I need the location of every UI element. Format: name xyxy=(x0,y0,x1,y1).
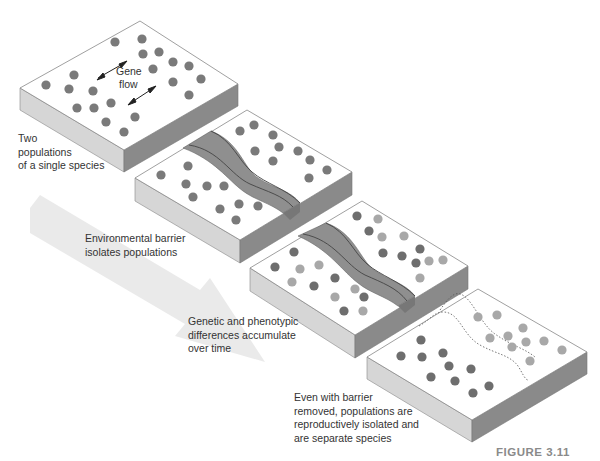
caption-stage-3: Genetic and phenotypic differences accum… xyxy=(188,315,298,356)
caption-line: Genetic and phenotypic xyxy=(188,315,298,329)
figure-label: FIGURE 3.11 xyxy=(496,446,570,458)
caption-line: reproductively isolated and xyxy=(294,418,419,432)
caption-stage-2: Environmental barrier isolates populatio… xyxy=(85,232,185,259)
caption-line: Environmental barrier xyxy=(85,232,185,246)
caption-line: over time xyxy=(188,342,298,356)
caption-line: isolates populations xyxy=(85,246,185,260)
caption-line: populations xyxy=(18,146,104,160)
caption-stage-4: Even with barrier removed, populations a… xyxy=(294,391,419,445)
gene-flow-label-line1: Gene xyxy=(116,65,142,78)
caption-stage-1: Two populations of a single species xyxy=(18,132,104,173)
caption-line: are separate species xyxy=(294,432,419,446)
gene-flow-label: Gene flow xyxy=(116,65,142,91)
gene-flow-label-line2: flow xyxy=(116,78,142,91)
caption-line: Even with barrier xyxy=(294,391,419,405)
caption-line: of a single species xyxy=(18,159,104,173)
caption-line: differences accumulate xyxy=(188,329,298,343)
caption-line: removed, populations are xyxy=(294,405,419,419)
caption-line: Two xyxy=(18,132,104,146)
